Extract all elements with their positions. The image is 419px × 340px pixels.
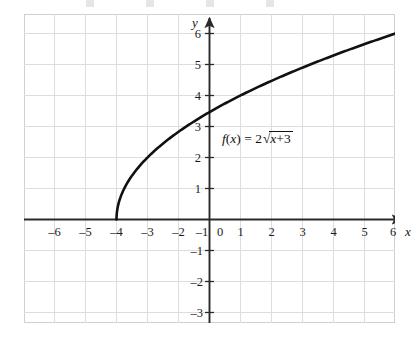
function-equation-label: f(x) = 2√x+3	[222, 131, 293, 146]
x-tick-label-1: 1	[237, 226, 243, 239]
radicand-operator: +	[276, 131, 284, 146]
y-tick-label-2: 2	[195, 151, 201, 164]
coefficient: 2	[255, 131, 262, 146]
y-tick-label-5: 5	[195, 58, 201, 71]
y-axis-label: y	[192, 16, 198, 29]
x-tick-label--1: –1	[196, 226, 209, 239]
radicand: x+3	[269, 131, 292, 146]
function-curve	[24, 14, 395, 323]
y-tick-label--2: –2	[191, 275, 204, 288]
graph-figure: –6 –5 –4 –3 –2 –1 0 1 2 3 4 5 6 1 2 3 4 …	[0, 0, 419, 340]
x-tick-label-4: 4	[330, 226, 336, 239]
plot-area: –6 –5 –4 –3 –2 –1 0 1 2 3 4 5 6 1 2 3 4 …	[24, 14, 395, 323]
x-tick-label--2: –2	[172, 226, 185, 239]
x-tick-label--4: –4	[110, 226, 123, 239]
x-axis-label: x	[405, 225, 411, 238]
y-tick-label-1: 1	[195, 182, 201, 195]
y-tick-label-3: 3	[195, 120, 201, 133]
radicand-constant: 3	[284, 131, 291, 146]
y-tick-label-4: 4	[195, 89, 201, 102]
x-tick-label-5: 5	[361, 226, 367, 239]
y-tick-label--3: –3	[191, 306, 204, 319]
x-tick-label-6: 6	[390, 226, 396, 239]
function-arg-close: )	[236, 131, 241, 146]
x-tick-label--6: –6	[48, 226, 61, 239]
origin-label: 0	[217, 226, 223, 239]
x-tick-label--5: –5	[79, 226, 92, 239]
radical-expression: √x+3	[262, 131, 293, 146]
x-tick-label-3: 3	[299, 226, 305, 239]
scan-artifact	[60, 0, 320, 7]
x-tick-label-2: 2	[268, 226, 274, 239]
x-tick-label--3: –3	[141, 226, 154, 239]
y-tick-label--1: –1	[191, 244, 204, 257]
equals-sign: =	[244, 131, 252, 146]
